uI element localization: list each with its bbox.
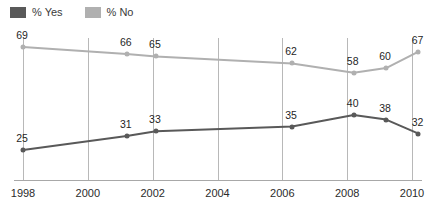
data-point-label: 25 — [16, 132, 28, 144]
data-point — [351, 70, 356, 75]
series-line-yes — [23, 115, 419, 150]
data-point-label: 62 — [285, 45, 297, 57]
data-point — [290, 124, 295, 129]
data-point-label: 38 — [379, 102, 391, 114]
x-tick-label-2010: 2010 — [400, 187, 424, 199]
plot-area: 6966656258606725313335403832 19982000200… — [0, 0, 435, 211]
data-point-label: 32 — [412, 116, 424, 128]
x-tick-label-2008: 2008 — [335, 187, 359, 199]
data-point — [124, 52, 129, 57]
data-point — [384, 117, 389, 122]
data-point — [384, 66, 389, 71]
data-point — [290, 61, 295, 66]
data-point-label: 35 — [285, 109, 297, 121]
data-point-label: 66 — [120, 36, 132, 48]
data-point-label: 60 — [379, 50, 391, 62]
data-point — [21, 148, 26, 153]
data-point-label: 65 — [149, 38, 161, 50]
data-point — [124, 133, 129, 138]
x-tick-label-2004: 2004 — [205, 187, 229, 199]
data-point-label: 33 — [149, 113, 161, 125]
data-point-label: 40 — [347, 97, 359, 109]
data-point — [21, 45, 26, 50]
x-tick-label-2006: 2006 — [270, 187, 294, 199]
series-lines — [0, 0, 435, 211]
data-point — [416, 131, 421, 136]
data-point — [351, 112, 356, 117]
x-tick-label-2000: 2000 — [76, 187, 100, 199]
data-point-label: 31 — [120, 118, 132, 130]
series-line-no — [23, 47, 419, 73]
data-point — [153, 54, 158, 59]
data-point — [153, 129, 158, 134]
data-point-label: 69 — [16, 29, 28, 41]
x-tick-label-1998: 1998 — [11, 187, 35, 199]
data-point — [416, 49, 421, 54]
line-chart: % Yes % No 6966656258606725313335403832 … — [0, 0, 435, 211]
x-tick-label-2002: 2002 — [140, 187, 164, 199]
data-point-label: 58 — [347, 55, 359, 67]
data-point-label: 67 — [412, 34, 424, 46]
